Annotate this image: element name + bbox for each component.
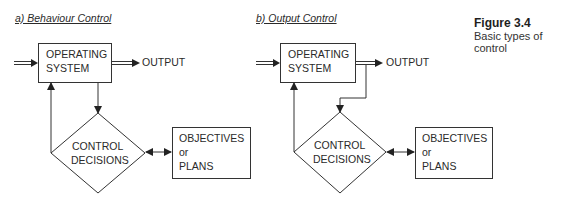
panel-b-output-label: OUTPUT (386, 56, 429, 69)
panel-b-decision-line2: DECISIONS (313, 153, 371, 166)
panel-b-objectives-line2: or (422, 146, 431, 159)
panel-a-output-label: OUTPUT (142, 56, 185, 69)
panel-a-objectives-line3: PLANS (179, 160, 213, 173)
panel-a-operating-system-line2: SYSTEM (46, 62, 89, 75)
panel-b-decision-line1: CONTROL (314, 139, 365, 152)
panel-b-operating-system-line2: SYSTEM (288, 62, 331, 75)
panel-b-objectives-line1: OBJECTIVES (422, 132, 487, 145)
panel-a-decision-line2: DECISIONS (71, 154, 129, 167)
panel-a-objectives-line1: OBJECTIVES (179, 132, 244, 145)
figure-number: Figure 3.4 (474, 16, 531, 30)
panel-a-objectives-line2: or (179, 146, 188, 159)
panel-a-operating-system-line1: OPERATING (46, 48, 107, 61)
panel-a-decision-line1: CONTROL (72, 140, 123, 153)
panel-b-title: b) Output Control (256, 12, 337, 24)
panel-a-title: a) Behaviour Control (15, 12, 111, 24)
panel-b-objectives-line3: PLANS (422, 160, 456, 173)
panel-b-operating-system-line1: OPERATING (288, 48, 349, 61)
figure-caption: Basic types of control (474, 30, 573, 54)
